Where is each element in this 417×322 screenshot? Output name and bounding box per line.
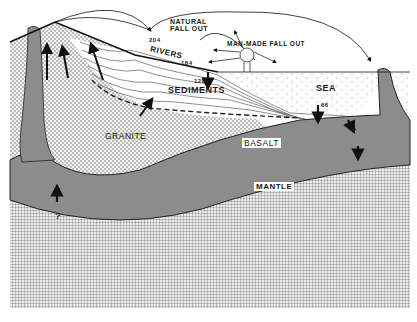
ridge-unknown-mark: ?: [356, 152, 361, 159]
natural-fallout-label-line1: NATURAL: [170, 18, 207, 25]
basalt-label: BASALT: [242, 138, 281, 148]
granite-label: GRANITE: [105, 131, 146, 141]
sediments-value: 128: [194, 78, 206, 84]
sea-floor-value: 66: [321, 102, 329, 108]
sea-label: SEA: [316, 83, 336, 93]
man-made-fallout-label: MAN-MADE FALL OUT: [227, 40, 305, 47]
geological-cross-section: NATURAL FALL OUT 204 MAN-MADE FALL OUT R…: [0, 0, 417, 322]
basalt-unknown-mark: ?: [352, 127, 357, 134]
mantle-unknown-mark: ?: [55, 211, 61, 221]
natural-fallout-value: 204: [149, 37, 161, 43]
natural-fallout-label-line2: FALL OUT: [170, 25, 208, 32]
rivers-value: 184: [181, 60, 193, 66]
cross-section-drawing: [0, 0, 417, 322]
mantle-label: MANTLE: [254, 182, 294, 191]
man-made-fallout-burst: [210, 32, 275, 72]
sediments-label: SEDIMENTS: [168, 85, 225, 95]
natural-fallout-label: NATURAL FALL OUT: [170, 18, 208, 32]
